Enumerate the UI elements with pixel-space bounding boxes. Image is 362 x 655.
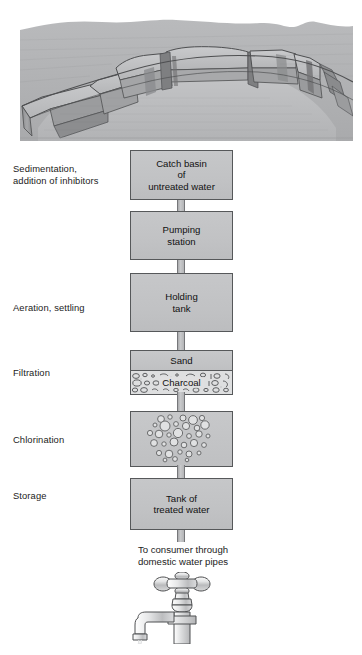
figure-canvas: Sedimentation, addition of inhibitors Ca… (0, 0, 362, 655)
outflow-line1: To consumer through (113, 544, 253, 556)
treated-tank-line2: treated water (154, 504, 210, 515)
consumer-outflow-note: To consumer through domestic water pipes (113, 544, 253, 568)
treated-tank-line1: Tank of (166, 493, 197, 504)
pipe-basin-to-pump (177, 200, 185, 211)
reservoir-landscape-illustration (20, 10, 353, 141)
faucet-illustration (118, 572, 246, 644)
box-catch-basin: Catch basin of untreated water (130, 150, 233, 200)
bottom-caption-sliver (18, 646, 348, 655)
stage-label-line1: Filtration (13, 367, 125, 379)
stage-label-line1: Aeration, settling (13, 302, 125, 314)
catch-basin-line2: of (177, 169, 185, 180)
chlorine-bubbles (131, 412, 232, 466)
stage-label-chlorination: Chlorination (13, 434, 125, 446)
box-filtration: Sand (130, 350, 233, 395)
box-pumping-station: Pumping station (130, 211, 233, 260)
holding-tank-line1: Holding (165, 291, 198, 302)
stage-label-filtration: Filtration (13, 367, 125, 379)
sand-label: Sand (170, 355, 192, 366)
catch-basin-line1: Catch basin (156, 158, 207, 169)
pipe-pump-to-holding (177, 260, 185, 273)
stage-label-line1: Storage (13, 490, 125, 502)
pumping-station-line2: station (167, 236, 195, 247)
stage-label-line2: addition of inhibitors (13, 175, 125, 187)
holding-tank-line2: tank (172, 303, 190, 314)
catch-basin-line3: untreated water (148, 181, 215, 192)
box-treated-water-tank: Tank of treated water (130, 478, 233, 530)
stage-label-storage: Storage (13, 490, 125, 502)
pipe-chlorination-to-tank (177, 465, 185, 478)
stage-label-line1: Sedimentation, (13, 163, 125, 175)
pipe-holding-to-filter (177, 332, 185, 350)
stage-label-line1: Chlorination (13, 434, 125, 446)
stage-label-aeration: Aeration, settling (13, 302, 125, 314)
outflow-line2: domestic water pipes (113, 556, 253, 568)
pumping-station-line1: Pumping (163, 224, 201, 235)
filter-layer-sand: Sand (131, 351, 232, 371)
box-holding-tank: Holding tank (130, 273, 233, 332)
charcoal-label: Charcoal (159, 377, 203, 388)
filter-layer-charcoal: Charcoal (131, 371, 232, 394)
box-chlorination (130, 411, 233, 467)
stage-label-sedimentation: Sedimentation, addition of inhibitors (13, 163, 125, 187)
pipe-filter-to-chlorination (177, 392, 185, 411)
pipe-tank-to-consumer (177, 530, 185, 542)
